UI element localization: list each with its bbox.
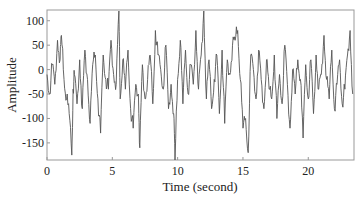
x-tick-label: 5 (109, 164, 115, 178)
y-tick-label: 0 (38, 63, 44, 77)
x-axis-label: Time (second) (163, 179, 238, 194)
y-tick-label: -100 (22, 111, 44, 125)
y-tick-label: 50 (32, 38, 44, 52)
x-tick-label: 0 (44, 164, 50, 178)
y-axis-ticks: 100500-50-100-150 (22, 14, 50, 150)
y-tick-label: -150 (22, 136, 44, 150)
y-tick-label: -50 (28, 87, 44, 101)
y-tick-label: 100 (26, 14, 44, 28)
plot-frame (47, 10, 354, 160)
x-tick-label: 20 (302, 164, 314, 178)
y-axis-label: Amplitude (4, 57, 19, 113)
amplitude-time-chart: 100500-50-100-150 05101520 Time (second)… (0, 0, 360, 205)
x-tick-label: 15 (237, 164, 249, 178)
x-tick-label: 10 (172, 164, 184, 178)
